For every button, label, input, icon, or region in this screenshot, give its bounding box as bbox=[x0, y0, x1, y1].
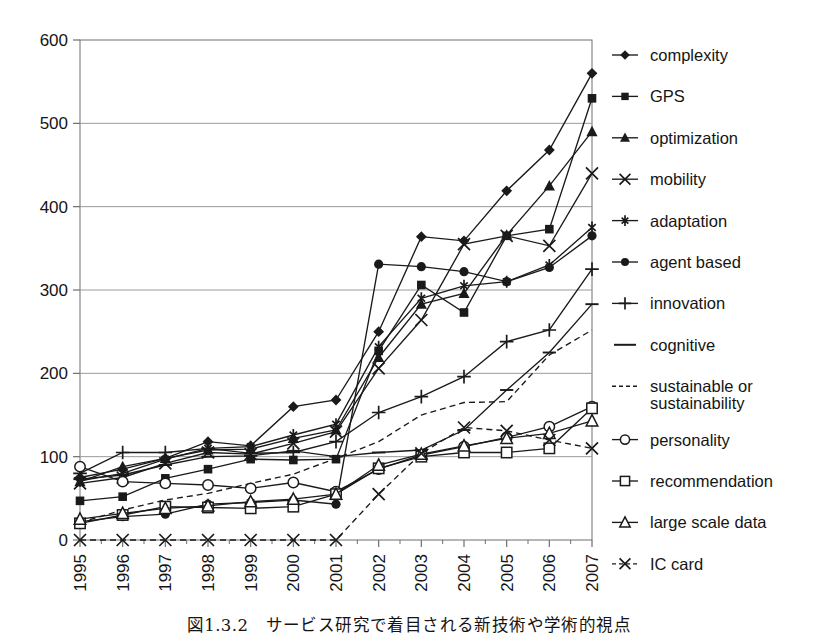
x-tick-label: 2003 bbox=[412, 554, 431, 592]
x-tick-label: 2005 bbox=[498, 554, 517, 592]
legend-item-innovation[interactable]: innovation bbox=[612, 294, 725, 312]
square-marker bbox=[417, 281, 426, 290]
legend-item-complexity[interactable]: complexity bbox=[612, 46, 729, 64]
legend-label: personality bbox=[650, 431, 731, 449]
square-marker bbox=[76, 497, 85, 506]
x-tick-label: 2006 bbox=[540, 554, 559, 592]
x-tick-label: 2002 bbox=[370, 554, 389, 592]
legend-label: cognitive bbox=[650, 336, 715, 354]
y-axis: 0100200300400500600 bbox=[40, 31, 80, 550]
legend-item-adaptation[interactable]: adaptation bbox=[612, 212, 727, 230]
legend-item-optimization[interactable]: optimization bbox=[612, 129, 738, 147]
legend-label: large scale data bbox=[650, 513, 767, 531]
y-tick-label: 200 bbox=[40, 364, 68, 383]
legend-item-personality[interactable]: personality bbox=[612, 431, 731, 449]
figure-caption: 図1.3.2 サービス研究で着目される新技術や学術的視点 bbox=[0, 612, 818, 636]
square-marker bbox=[545, 225, 554, 234]
x-tick-label: 2001 bbox=[327, 554, 346, 592]
circle-marker bbox=[621, 258, 629, 266]
x-tick-label: 2004 bbox=[455, 554, 474, 592]
legend-label: GPS bbox=[650, 87, 685, 105]
figure-root: 0100200300400500600199519961997199819992… bbox=[0, 0, 818, 644]
y-tick-label: 100 bbox=[40, 448, 68, 467]
legend-label: agent based bbox=[650, 253, 741, 271]
plot-grid bbox=[80, 40, 592, 540]
open-circle-marker bbox=[160, 478, 170, 488]
legend-label: adaptation bbox=[650, 212, 727, 230]
y-tick-label: 500 bbox=[40, 114, 68, 133]
x-tick-label: 2007 bbox=[583, 554, 602, 592]
circle-marker bbox=[545, 263, 554, 272]
legend-item-agent-based[interactable]: agent based bbox=[612, 253, 741, 271]
legend-label: sustainable or bbox=[650, 377, 753, 395]
legend-label: optimization bbox=[650, 129, 738, 147]
x-tick-label: 2000 bbox=[284, 554, 303, 592]
diamond-marker bbox=[620, 50, 630, 60]
legend-item-large-scale-data[interactable]: large scale data bbox=[612, 513, 767, 531]
square-marker bbox=[204, 465, 213, 474]
legend-item-cognitive[interactable]: cognitive bbox=[614, 336, 715, 354]
square-marker bbox=[621, 93, 628, 100]
legend-item-gps[interactable]: GPS bbox=[612, 87, 685, 105]
x-tick-label: 1999 bbox=[242, 554, 261, 592]
open-circle-marker bbox=[203, 480, 213, 490]
legend: complexityGPSoptimizationmobilityadaptat… bbox=[612, 46, 773, 573]
line-chart: 0100200300400500600199519961997199819992… bbox=[0, 0, 818, 644]
x-axis: 1995199619971998199920002001200220032004… bbox=[71, 540, 602, 592]
y-tick-label: 400 bbox=[40, 198, 68, 217]
legend-item-recommendation[interactable]: recommendation bbox=[612, 472, 773, 490]
circle-marker bbox=[502, 277, 511, 286]
circle-marker bbox=[417, 262, 426, 271]
circle-marker bbox=[374, 260, 383, 269]
x-tick-label: 1996 bbox=[114, 554, 133, 592]
legend-label: mobility bbox=[650, 170, 707, 188]
open-circle-marker bbox=[288, 477, 298, 487]
x-tick-label: 1998 bbox=[199, 554, 218, 592]
y-tick-label: 0 bbox=[59, 531, 68, 550]
square-marker bbox=[588, 94, 597, 103]
open-circle-marker bbox=[245, 483, 255, 493]
open-square-marker bbox=[587, 403, 597, 413]
legend-label: innovation bbox=[650, 294, 725, 312]
square-marker bbox=[460, 308, 469, 317]
open-circle-marker bbox=[117, 476, 127, 486]
circle-marker bbox=[587, 231, 596, 240]
legend-label: sustainability bbox=[650, 394, 745, 412]
open-square-marker bbox=[501, 447, 511, 457]
square-marker bbox=[118, 492, 127, 501]
circle-marker bbox=[331, 500, 340, 509]
y-tick-label: 300 bbox=[40, 281, 68, 300]
legend-item-sustainable-or[interactable]: sustainable orsustainability bbox=[612, 377, 753, 412]
open-square-marker bbox=[620, 476, 629, 485]
x-tick-label: 1997 bbox=[156, 554, 175, 592]
open-circle-marker bbox=[75, 461, 85, 471]
x-tick-label: 1995 bbox=[71, 554, 90, 592]
legend-label: recommendation bbox=[650, 472, 773, 490]
circle-marker bbox=[459, 267, 468, 276]
legend-item-mobility[interactable]: mobility bbox=[612, 170, 707, 188]
legend-label: IC card bbox=[650, 555, 703, 573]
open-circle-marker bbox=[620, 435, 629, 444]
y-tick-label: 600 bbox=[40, 31, 68, 50]
legend-item-ic-card[interactable]: IC card bbox=[612, 555, 703, 573]
plus-marker bbox=[619, 297, 631, 309]
legend-label: complexity bbox=[650, 46, 729, 64]
